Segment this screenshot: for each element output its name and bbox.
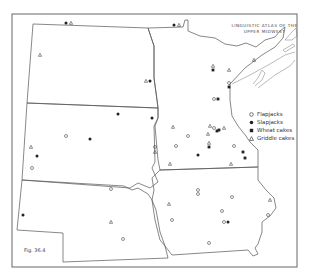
dialect-markers: [22, 21, 272, 244]
legend-label: Wheat cakes: [257, 126, 292, 134]
state-south-dakota: [22, 103, 158, 188]
open-circle-marker: [122, 238, 125, 241]
open-triangle-marker: [227, 68, 230, 71]
open-triangle-icon: [248, 136, 254, 141]
filled-circle-marker: [22, 214, 25, 217]
figure-label: Fig. 36.4: [24, 247, 45, 253]
open-circle-marker: [221, 210, 224, 213]
legend-label: Slapjacks: [257, 118, 283, 126]
legend-label: Griddle cakes: [257, 134, 294, 142]
open-triangle-marker: [229, 162, 232, 165]
open-triangle-marker: [69, 21, 72, 24]
filled-circle-marker: [151, 117, 154, 120]
legend-item-wheat-cakes: Wheat cakes: [248, 126, 294, 134]
filled-circle-marker: [65, 22, 68, 25]
state-minnesota: [148, 20, 285, 170]
filled-circle-marker: [117, 113, 120, 116]
open-triangle-marker: [206, 132, 209, 135]
filled-square-marker: [244, 157, 247, 160]
legend-item-griddle-cakes: Griddle cakes: [248, 134, 294, 142]
filled-circle-marker: [173, 24, 176, 27]
open-circle-marker: [208, 242, 211, 245]
open-triangle-marker: [29, 145, 32, 148]
filled-square-marker: [218, 129, 221, 132]
legend-label: Flapjacks: [257, 110, 283, 118]
open-circle-marker: [213, 127, 216, 130]
legend-item-slapjacks: Slapjacks: [248, 118, 294, 126]
filled-circle-marker: [227, 221, 230, 224]
open-triangle-marker: [211, 64, 214, 67]
open-triangle-marker: [268, 198, 271, 201]
open-triangle-marker: [208, 124, 211, 127]
filled-square-marker: [217, 98, 220, 101]
open-triangle-marker: [177, 23, 180, 26]
state-north-dakota: [27, 24, 158, 108]
filled-circle-icon: [248, 120, 254, 125]
filled-square-icon: [248, 128, 254, 133]
open-circle-marker: [233, 145, 236, 148]
open-triangle-marker: [144, 79, 147, 82]
open-circle-marker: [267, 214, 270, 217]
open-triangle-marker: [167, 202, 170, 205]
filled-square-marker: [242, 151, 245, 154]
open-circle-marker: [213, 98, 216, 101]
open-circle-marker: [65, 135, 68, 138]
open-circle-marker: [197, 189, 200, 192]
open-circle-marker: [231, 196, 234, 199]
filled-circle-marker: [36, 155, 39, 158]
open-triangle-marker: [222, 126, 225, 129]
open-triangle-marker: [171, 125, 174, 128]
isle-royale: [283, 44, 295, 52]
open-circle-icon: [248, 112, 254, 117]
filled-square-marker: [228, 86, 231, 89]
filled-square-marker: [212, 69, 215, 72]
lake-superior-shore-3: [258, 60, 295, 88]
open-triangle-marker: [38, 53, 41, 56]
filled-circle-marker: [149, 80, 152, 83]
filled-square-marker: [208, 146, 211, 149]
filled-circle-marker: [197, 154, 200, 157]
open-circle-marker: [110, 188, 113, 191]
title-line-2: Upper Midwest: [222, 29, 307, 35]
open-circle-marker: [175, 145, 178, 148]
filled-circle-marker: [89, 138, 92, 141]
open-triangle-marker: [109, 220, 112, 223]
open-circle-marker: [171, 219, 174, 222]
open-triangle-marker: [168, 162, 171, 165]
state-iowa: [152, 167, 276, 256]
open-circle-marker: [154, 146, 157, 149]
open-circle-marker: [187, 135, 190, 138]
legend-item-flapjacks: Flapjacks: [248, 110, 294, 118]
open-circle-marker: [223, 221, 226, 224]
lake-superior-shore: [232, 52, 295, 84]
open-triangle-marker: [207, 141, 210, 144]
legend: Flapjacks Slapjacks Wheat cakes Griddle …: [248, 110, 294, 142]
open-circle-marker: [31, 167, 34, 170]
open-circle-marker: [228, 82, 231, 85]
open-circle-marker: [197, 193, 200, 196]
map-title: Linguistic Atlas of the Upper Midwest: [222, 23, 307, 35]
